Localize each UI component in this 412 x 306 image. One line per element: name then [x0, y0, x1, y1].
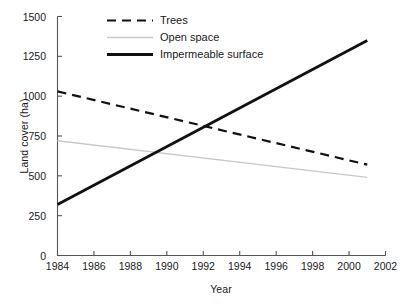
- legend-item: Trees: [106, 12, 296, 29]
- legend-item: Impermeable surface: [106, 46, 296, 63]
- chart-legend: TreesOpen spaceImpermeable surface: [106, 12, 296, 63]
- legend-label: Trees: [160, 14, 188, 27]
- x-tick-label: 1994: [220, 260, 260, 272]
- x-tick-label: 1984: [38, 260, 78, 272]
- legend-swatch-icon: [106, 12, 154, 29]
- x-tick-label: 1996: [256, 260, 296, 272]
- x-tick-label: 2002: [366, 260, 406, 272]
- y-axis-label: Land cover (ha): [16, 16, 32, 256]
- x-tick-label: 1998: [293, 260, 333, 272]
- legend-label: Impermeable surface: [160, 48, 263, 61]
- x-tick-label: 1986: [74, 260, 114, 272]
- x-axis-label: Year: [57, 283, 385, 295]
- legend-swatch-icon: [106, 29, 154, 46]
- legend-item: Open space: [106, 29, 296, 46]
- x-tick-label: 1990: [147, 260, 187, 272]
- legend-label: Open space: [160, 31, 219, 44]
- legend-swatch-icon: [106, 46, 154, 63]
- x-tick-label: 1992: [183, 260, 223, 272]
- chart-figure: 0250500750100012501500 19841986198819901…: [0, 0, 412, 306]
- x-tick-label: 1988: [110, 260, 150, 272]
- x-tick-label: 2000: [329, 260, 369, 272]
